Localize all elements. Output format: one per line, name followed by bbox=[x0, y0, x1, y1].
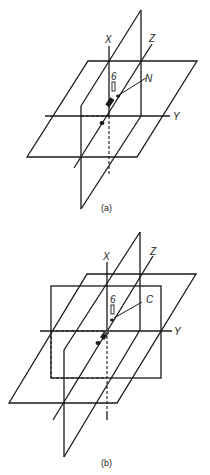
annotation-label-a: N bbox=[145, 73, 153, 84]
atom-upper-b bbox=[110, 318, 114, 321]
element-bar-a bbox=[112, 82, 115, 91]
z-axis-label-b: Z bbox=[149, 246, 157, 257]
panel-b: 6 C X Z Y (b) bbox=[9, 232, 196, 468]
panel-a: 6 N X Z Y (a) bbox=[27, 10, 197, 213]
y-axis-label-b: Y bbox=[174, 326, 182, 337]
y-axis-label-a: Y bbox=[173, 111, 181, 122]
x-axis-label-a: X bbox=[104, 34, 112, 45]
vertical-plane-top-edge-a bbox=[81, 10, 141, 106]
z-axis-label-a: Z bbox=[148, 33, 156, 44]
element-bar-b bbox=[111, 305, 114, 314]
element-symbol-b: 6 bbox=[110, 294, 116, 305]
z-axis-a bbox=[74, 44, 152, 168]
diagram-canvas: 6 N X Z Y (a) bbox=[0, 0, 210, 475]
x-axis-label-b: X bbox=[102, 251, 110, 262]
vertical-plane-bottom-edge-a bbox=[81, 116, 141, 209]
annotation-leader-a bbox=[119, 78, 146, 95]
panel-caption-b: (b) bbox=[101, 458, 112, 468]
panel-caption-a: (a) bbox=[101, 203, 112, 213]
atom-lower-b bbox=[96, 341, 101, 345]
annotation-label-b: C bbox=[146, 294, 154, 305]
annotation-leader-b bbox=[114, 302, 142, 318]
slanted-plane-bottom-edge-b bbox=[64, 330, 140, 457]
element-symbol-a: 6 bbox=[111, 71, 117, 82]
slanted-plane-top-edge-b bbox=[64, 232, 140, 350]
atom-lower-a bbox=[100, 121, 105, 125]
diagram-figure: 6 N X Z Y (a) bbox=[0, 0, 210, 475]
